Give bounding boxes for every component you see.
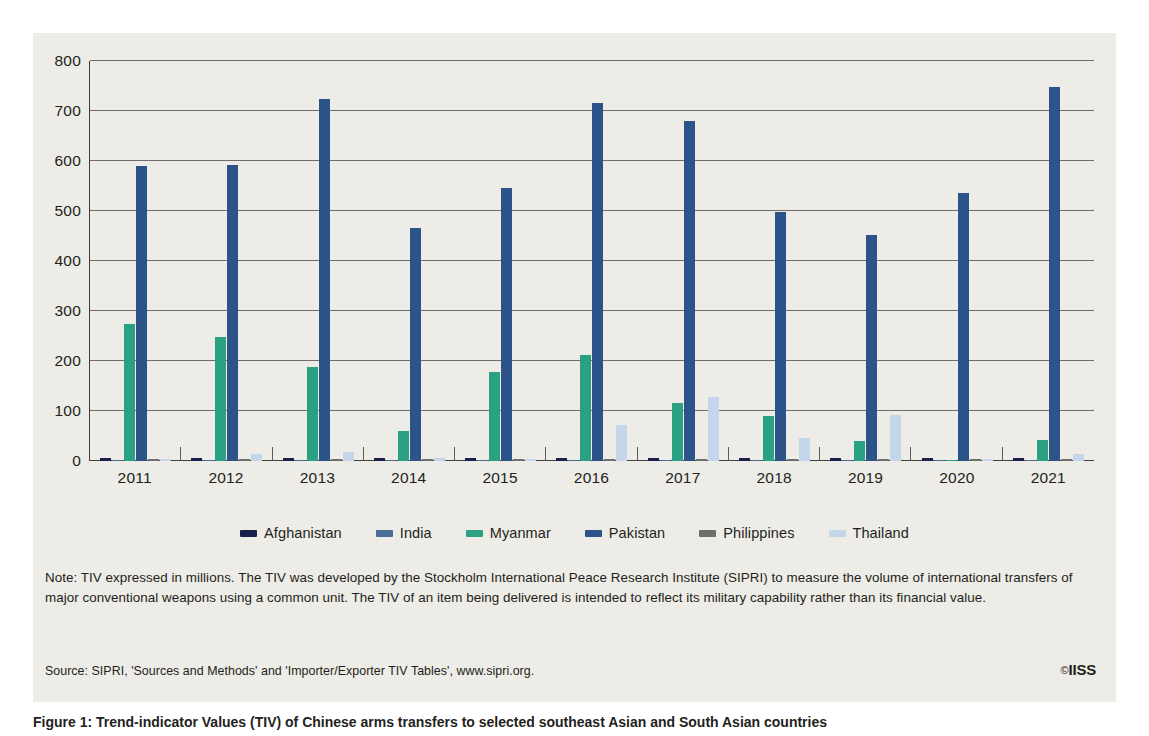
bar-group-2013 xyxy=(273,61,364,461)
bar-thailand-2014[interactable] xyxy=(434,458,445,461)
bar-india-2020[interactable] xyxy=(934,460,945,462)
x-axis-tick-2011: 2011 xyxy=(89,469,180,487)
bar-pakistan-2018[interactable] xyxy=(775,212,786,461)
bar-pakistan-2020[interactable] xyxy=(958,193,969,462)
bar-group-2012 xyxy=(181,61,272,461)
bar-afghanistan-2015[interactable] xyxy=(465,458,476,461)
bar-pakistan-2015[interactable] xyxy=(501,188,512,461)
bar-thailand-2019[interactable] xyxy=(890,415,901,461)
x-axis-tick-2014: 2014 xyxy=(363,469,454,487)
bar-india-2019[interactable] xyxy=(842,460,853,462)
logo-name: IISS xyxy=(1068,661,1096,678)
iiss-logo: ©IISS xyxy=(1061,661,1096,678)
bar-myanmar-2014[interactable] xyxy=(398,431,409,461)
legend-item-myanmar[interactable]: Myanmar xyxy=(466,525,551,541)
chart-panel: 0100200300400500600700800 20112012201320… xyxy=(33,33,1116,702)
bar-myanmar-2017[interactable] xyxy=(672,403,683,461)
bar-india-2011[interactable] xyxy=(112,460,123,462)
y-axis-tick-800: 800 xyxy=(33,52,81,70)
bar-pakistan-2012[interactable] xyxy=(227,165,238,461)
figure-caption: Figure 1: Trend-indicator Values (TIV) o… xyxy=(33,714,1033,730)
legend-item-pakistan[interactable]: Pakistan xyxy=(585,525,665,541)
bar-pakistan-2017[interactable] xyxy=(684,121,695,462)
bar-philippines-2017[interactable] xyxy=(696,459,707,461)
bar-myanmar-2011[interactable] xyxy=(124,324,135,462)
bar-pakistan-2019[interactable] xyxy=(866,235,877,461)
bar-thailand-2013[interactable] xyxy=(343,452,354,461)
y-axis-tick-100: 100 xyxy=(33,402,81,420)
y-axis-tick-700: 700 xyxy=(33,102,81,120)
bar-philippines-2016[interactable] xyxy=(604,459,615,461)
y-axis: 0100200300400500600700800 xyxy=(33,61,81,461)
bar-india-2014[interactable] xyxy=(386,460,397,462)
x-axis-tick-2015: 2015 xyxy=(454,469,545,487)
bar-myanmar-2013[interactable] xyxy=(307,367,318,461)
bar-philippines-2012[interactable] xyxy=(239,459,250,461)
bar-afghanistan-2016[interactable] xyxy=(556,458,567,461)
bar-thailand-2020[interactable] xyxy=(982,459,993,462)
bar-thailand-2012[interactable] xyxy=(251,454,262,461)
bar-afghanistan-2018[interactable] xyxy=(739,458,750,461)
bar-pakistan-2021[interactable] xyxy=(1049,87,1060,461)
legend-swatch-icon xyxy=(376,530,393,537)
bar-myanmar-2012[interactable] xyxy=(215,337,226,462)
x-axis-tick-2020: 2020 xyxy=(911,469,1002,487)
bar-india-2021[interactable] xyxy=(1025,460,1036,462)
bar-myanmar-2015[interactable] xyxy=(489,372,500,462)
bar-philippines-2020[interactable] xyxy=(970,459,981,461)
bar-pakistan-2011[interactable] xyxy=(136,166,147,462)
bar-philippines-2021[interactable] xyxy=(1061,459,1072,461)
figure-container: 0100200300400500600700800 20112012201320… xyxy=(0,0,1149,736)
legend-item-afghanistan[interactable]: Afghanistan xyxy=(240,525,342,541)
bar-thailand-2021[interactable] xyxy=(1073,454,1084,462)
bar-myanmar-2019[interactable] xyxy=(854,441,865,462)
bar-afghanistan-2013[interactable] xyxy=(283,458,294,461)
bar-afghanistan-2020[interactable] xyxy=(922,458,933,461)
bar-thailand-2011[interactable] xyxy=(160,459,171,462)
bar-myanmar-2021[interactable] xyxy=(1037,440,1048,462)
legend-swatch-icon xyxy=(699,530,716,537)
bar-afghanistan-2012[interactable] xyxy=(191,458,202,461)
legend-item-thailand[interactable]: Thailand xyxy=(829,525,909,541)
bar-group-2020 xyxy=(911,61,1002,461)
bar-philippines-2011[interactable] xyxy=(148,459,159,461)
bar-india-2016[interactable] xyxy=(568,460,579,462)
bar-group-2016 xyxy=(546,61,637,461)
bar-afghanistan-2021[interactable] xyxy=(1013,458,1024,461)
bar-afghanistan-2019[interactable] xyxy=(830,458,841,461)
bar-thailand-2015[interactable] xyxy=(525,459,536,461)
note-text: Note: TIV expressed in millions. The TIV… xyxy=(45,568,1096,607)
legend-item-philippines[interactable]: Philippines xyxy=(699,525,794,541)
bar-pakistan-2016[interactable] xyxy=(592,103,603,462)
bar-pakistan-2014[interactable] xyxy=(410,228,421,461)
bar-india-2012[interactable] xyxy=(203,460,214,462)
bar-pakistan-2013[interactable] xyxy=(319,99,330,461)
bar-india-2015[interactable] xyxy=(477,460,488,462)
bar-philippines-2019[interactable] xyxy=(878,459,889,461)
bar-philippines-2015[interactable] xyxy=(513,459,524,461)
x-axis-tick-2019: 2019 xyxy=(820,469,911,487)
bar-philippines-2018[interactable] xyxy=(787,459,798,461)
y-axis-tick-0: 0 xyxy=(33,452,81,470)
bar-india-2018[interactable] xyxy=(751,460,762,462)
bar-afghanistan-2011[interactable] xyxy=(100,458,111,461)
bar-thailand-2017[interactable] xyxy=(708,397,719,462)
bar-myanmar-2018[interactable] xyxy=(763,416,774,461)
bar-myanmar-2020[interactable] xyxy=(946,460,957,462)
legend-item-india[interactable]: India xyxy=(376,525,432,541)
legend-label: India xyxy=(400,525,432,541)
bar-thailand-2016[interactable] xyxy=(616,425,627,461)
bar-thailand-2018[interactable] xyxy=(799,438,810,462)
bar-philippines-2013[interactable] xyxy=(331,459,342,461)
bar-myanmar-2016[interactable] xyxy=(580,355,591,462)
x-axis-tick-2017: 2017 xyxy=(637,469,728,487)
legend-swatch-icon xyxy=(585,530,602,537)
bar-india-2013[interactable] xyxy=(295,460,306,462)
x-axis-tick-2021: 2021 xyxy=(1003,469,1094,487)
legend-label: Afghanistan xyxy=(264,525,342,541)
bar-afghanistan-2014[interactable] xyxy=(374,458,385,461)
bar-philippines-2014[interactable] xyxy=(422,459,433,461)
y-axis-tick-300: 300 xyxy=(33,302,81,320)
bar-afghanistan-2017[interactable] xyxy=(648,458,659,462)
bar-india-2017[interactable] xyxy=(660,460,671,462)
